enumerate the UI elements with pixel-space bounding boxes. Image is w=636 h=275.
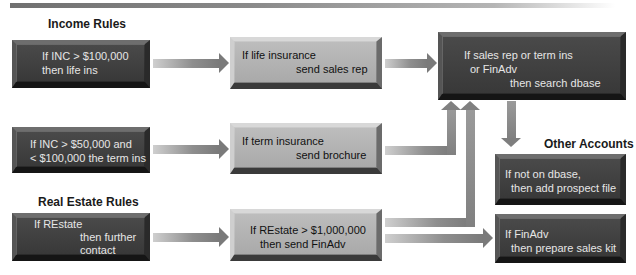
rule-text-line: If INC > $100,000 [42,49,129,63]
rule-text-line: If not on dbase, [505,167,581,181]
rule-text-line: contact [80,243,115,257]
rule-box-add-prospect: If not on dbase, then add prospect file [495,154,626,205]
rule-text-line: If life insurance [242,48,316,62]
rule-text-line: then search dbase [510,76,601,90]
rule-text-line: If REstate [34,217,82,231]
rule-text-line: send brochure [296,148,366,162]
arrow-shaft [153,59,219,68]
arrow-shaft [385,218,471,227]
rule-box-income-50k: If INC > $50,000 and < $100,000 the term… [12,127,150,173]
other-accounts-title: Other Accounts [544,137,634,151]
rule-box-real-estate-1m: If REstate > $1,000,000 then send FinAdv [230,209,382,261]
rule-text-line: then send FinAdv [260,237,346,251]
header-banner [10,3,615,8]
rule-box-real-estate: If REstate then further contact [12,213,150,261]
rule-text-line: If FinAdv [505,227,548,241]
arrow-right-icon [219,53,229,73]
rule-text-line: then add prospect file [511,181,616,195]
arrow-right-icon [219,139,229,159]
arrow-shaft [447,110,456,155]
arrow-shaft [466,110,475,227]
rule-box-prepare-sales-kit: If FinAdv then prepare sales kit [495,214,626,263]
arrow-right-icon [483,228,493,248]
real-estate-rules-title: Real Estate Rules [38,195,139,209]
arrow-shaft [153,145,219,154]
rule-text-line: then further [80,230,136,244]
rule-box-search-dbase: If sales rep or term ins or FinAdv then … [438,32,626,100]
arrow-shaft [153,233,219,242]
rule-box-income-100k: If INC > $100,000 then life ins [12,40,150,88]
arrow-shaft [385,59,427,68]
rule-text-line: or FinAdv [470,62,517,76]
rule-box-life-insurance: If life insurance send sales rep [230,37,382,89]
arrow-up-icon [460,101,480,110]
arrow-right-icon [427,53,437,73]
rule-text-line: < $100,000 the term ins [30,151,146,165]
rule-box-term-insurance: If term insurance send brochure [230,123,382,174]
rule-text-line: If INC > $50,000 and [30,137,132,151]
rule-text-line: If sales rep or term ins [464,48,573,62]
rule-text-line: send sales rep [296,62,368,76]
rule-text-line: then life ins [42,63,98,77]
income-rules-title: Income Rules [48,17,126,31]
rule-text-line: If REstate > $1,000,000 [250,223,366,237]
arrow-shaft [385,234,483,243]
arrow-shaft [507,101,516,138]
arrow-right-icon [219,227,229,247]
arrow-shaft [385,146,452,155]
rule-text-line: then prepare sales kit [511,241,616,255]
rule-text-line: If term insurance [242,134,324,148]
arrow-up-icon [441,101,461,110]
arrow-down-icon [501,138,521,147]
